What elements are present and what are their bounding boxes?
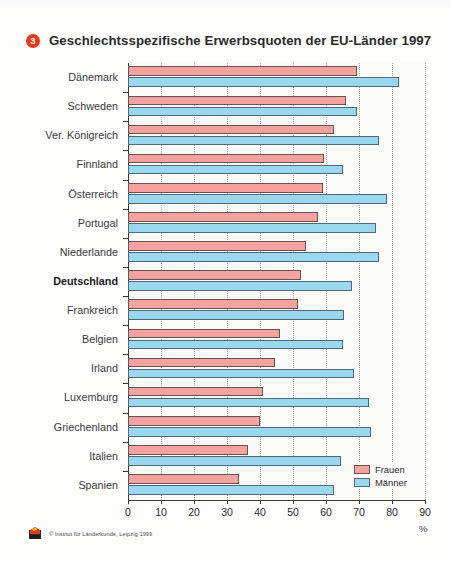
y-tick [123, 180, 128, 181]
bar-frauen-schweden [128, 96, 346, 106]
category-label-niederlande: Niederlande [0, 238, 118, 267]
bar-maenner-d-nemark [128, 77, 399, 87]
x-tick-label-0: 0 [125, 506, 131, 518]
category-label-portugal: Portugal [0, 209, 118, 238]
bar-maenner-irland [128, 369, 354, 379]
source-text: © Institut für Länderkunde, Leipzig 1999 [49, 531, 152, 537]
y-tick [123, 471, 128, 472]
category-label-deutschland: Deutschland [0, 267, 118, 296]
bar-pair [128, 267, 426, 296]
x-tick-label-50: 50 [287, 506, 299, 518]
bar-maenner--sterreich [128, 194, 387, 204]
y-tick [123, 413, 128, 414]
bar-frauen-italien [128, 445, 248, 455]
chart-row: Belgien [0, 325, 450, 354]
bar-maenner-schweden [128, 107, 357, 117]
x-tick-40 [260, 500, 261, 504]
category-label-spanien: Spanien [0, 471, 118, 500]
chart-legend: Frauen Männer [352, 463, 409, 489]
x-tick-60 [326, 500, 327, 504]
y-tick [123, 238, 128, 239]
bar-maenner-italien [128, 456, 341, 466]
bar-pair [128, 238, 426, 267]
x-tick-80 [392, 500, 393, 504]
legend-item-frauen: Frauen [354, 464, 407, 475]
category-label-luxemburg: Luxemburg [0, 383, 118, 412]
category-label-schweden: Schweden [0, 92, 118, 121]
bar-maenner-spanien [128, 485, 334, 495]
bar-frauen-griechenland [128, 416, 260, 426]
x-tick-50 [293, 500, 294, 504]
ifl-logo-icon [28, 526, 43, 541]
legend-item-maenner: Männer [354, 477, 407, 488]
bar-pair [128, 325, 426, 354]
bar-frauen-spanien [128, 474, 239, 484]
bar-maenner-portugal [128, 223, 376, 233]
bar-frauen-luxemburg [128, 387, 263, 397]
bar-maenner-niederlande [128, 252, 379, 262]
x-tick-label-30: 30 [221, 506, 233, 518]
bar-maenner-luxemburg [128, 398, 369, 408]
bar-frauen-belgien [128, 329, 280, 339]
bar-maenner-finnland [128, 165, 343, 175]
bar-frauen-finnland [128, 154, 324, 164]
x-tick-label-60: 60 [320, 506, 332, 518]
y-tick [123, 150, 128, 151]
category-label-ver-k-nigreich: Ver. Königreich [0, 121, 118, 150]
figure-title-row: 3 Geschlechtsspezifische Erwerbsquoten d… [26, 33, 436, 48]
bar-pair [128, 180, 426, 209]
x-tick-30 [227, 500, 228, 504]
chart-row: Dänemark [0, 63, 450, 92]
x-axis-line [128, 500, 426, 501]
x-tick-label-90: 90 [419, 506, 431, 518]
category-label-d-nemark: Dänemark [0, 63, 118, 92]
y-tick [123, 354, 128, 355]
category-label-griechenland: Griechenland [0, 413, 118, 442]
bar-maenner-griechenland [128, 427, 371, 437]
bar-frauen-frankreich [128, 299, 298, 309]
bar-pair [128, 413, 426, 442]
x-tick-label-20: 20 [188, 506, 200, 518]
y-tick [123, 209, 128, 210]
y-tick [123, 267, 128, 268]
bar-frauen-ver-k-nigreich [128, 125, 334, 135]
legend-swatch-maenner-icon [354, 478, 370, 487]
x-tick-label-40: 40 [254, 506, 266, 518]
x-tick-0 [128, 500, 129, 504]
bar-pair [128, 63, 426, 92]
y-tick [123, 383, 128, 384]
bar-maenner-belgien [128, 340, 343, 350]
x-tick-70 [359, 500, 360, 504]
bar-frauen-deutschland [128, 270, 301, 280]
chart-row: Österreich [0, 180, 450, 209]
x-tick-label-10: 10 [155, 506, 167, 518]
bar-frauen-niederlande [128, 241, 306, 251]
chart-row: Frankreich [0, 296, 450, 325]
category-label-italien: Italien [0, 442, 118, 471]
legend-label-frauen: Frauen [375, 464, 405, 475]
figure-number-badge: 3 [26, 34, 40, 48]
bar-pair [128, 92, 426, 121]
category-label-frankreich: Frankreich [0, 296, 118, 325]
legend-label-maenner: Männer [375, 477, 407, 488]
x-tick-90 [425, 500, 426, 504]
y-tick [123, 325, 128, 326]
bar-frauen-portugal [128, 212, 318, 222]
chart-row: Portugal [0, 209, 450, 238]
bar-pair [128, 354, 426, 383]
bar-maenner-deutschland [128, 281, 352, 291]
chart-row: Ver. Königreich [0, 121, 450, 150]
chart-row: Schweden [0, 92, 450, 121]
bar-frauen--sterreich [128, 183, 323, 193]
bar-maenner-ver-k-nigreich [128, 136, 379, 146]
bar-pair [128, 296, 426, 325]
chart-row: Niederlande [0, 238, 450, 267]
y-tick [123, 442, 128, 443]
figure-source: © Institut für Länderkunde, Leipzig 1999 [28, 526, 152, 541]
y-tick [123, 92, 128, 93]
x-tick-label-70: 70 [353, 506, 365, 518]
page-title: Geschlechtsspezifische Erwerbsquoten der… [49, 33, 431, 48]
bar-pair [128, 209, 426, 238]
bar-pair [128, 150, 426, 179]
bar-pair [128, 121, 426, 150]
